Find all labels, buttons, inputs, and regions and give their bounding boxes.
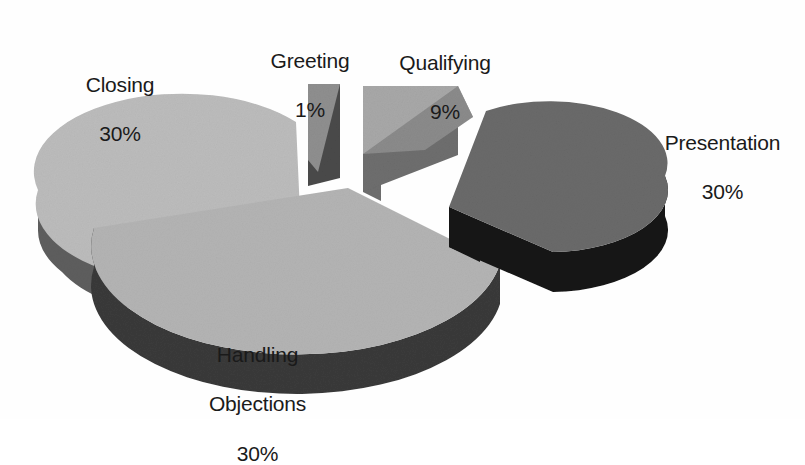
slice-label-presentation-percent: 30% [640,180,805,205]
slice-label-greeting-percent: 1% [250,98,370,123]
slice-label-closing-name: Closing [45,73,195,98]
slice-label-qualifying: Qualifying 9% [375,26,515,150]
slice-label-qualifying-percent: 9% [375,100,515,125]
slice-label-closing: Closing 30% [45,48,195,172]
slice-label-qualifying-name: Qualifying [375,51,515,76]
slice-label-handling-name-line1: Handling [150,343,365,368]
slice-label-greeting: Greeting 1% [250,24,370,148]
slice-label-presentation-name: Presentation [640,131,805,156]
slice-label-presentation: Presentation 30% [640,106,805,230]
slice-label-greeting-name: Greeting [250,49,370,74]
slice-label-handling-objections: Handling Objections 30% [150,318,365,465]
slice-label-handling-percent: 30% [150,442,365,465]
slice-label-handling-name-line2: Objections [150,392,365,417]
slice-label-closing-percent: 30% [45,122,195,147]
